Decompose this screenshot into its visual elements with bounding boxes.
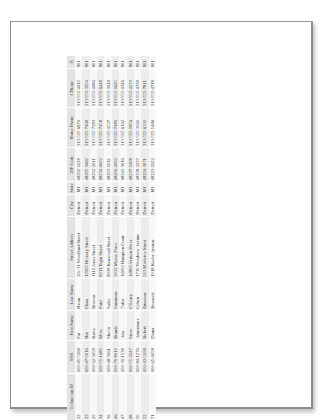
- table-cell: 48204-3071: [141, 148, 148, 182]
- table-cell: Simmons: [112, 278, 119, 310]
- table-cell: 000-47-5016: [82, 340, 89, 373]
- table-cell: 313-555-4537: [104, 108, 111, 148]
- column-header: Technician ID: [67, 373, 75, 420]
- table-cell: 3032 Moose Place: [112, 216, 119, 278]
- table-cell: 313-555-7468: [82, 108, 89, 148]
- table-cell: Hui: [82, 310, 89, 340]
- table-row: 22000-45-5368PatHwan20c 31 Woodland Stre…: [75, 56, 82, 420]
- table-cell: 313-555-4346: [119, 69, 126, 108]
- table-cell: Detroit: [119, 194, 126, 216]
- table-row: 50000-84-1274AnnemarieCohen1730 Woodrow …: [134, 56, 141, 420]
- table-cell: Cohen: [134, 278, 141, 310]
- table-cell: 23: [82, 373, 89, 420]
- table-cell: 000-48-3961: [104, 340, 111, 373]
- table-cell: 313-555-3941: [134, 108, 141, 148]
- table-cell: 801: [104, 56, 111, 69]
- table-cell: Chan: [82, 278, 89, 310]
- table-cell: 000-84-1274: [134, 340, 141, 373]
- table-row: 34000-55-1480MikePatel8211 Elgin StreetD…: [97, 56, 104, 420]
- table-cell: 801: [119, 56, 126, 69]
- table-cell: 48: [127, 373, 134, 420]
- table-cell: 313-555-4798: [134, 69, 141, 108]
- table-cell: Mike: [97, 310, 104, 340]
- table-cell: MI: [104, 182, 111, 194]
- table-cell: 48238-2237: [134, 148, 141, 182]
- table-cell: MI: [90, 182, 97, 194]
- table-cell: Detroit: [82, 194, 89, 216]
- table-cell: 48205-3462: [82, 148, 89, 182]
- table-cell: Annemarie: [134, 310, 141, 340]
- table-cell: Rosenski: [149, 278, 156, 310]
- table-cell: 48234-4002: [97, 148, 104, 182]
- table-cell: 313-555-4233: [127, 69, 134, 108]
- table-cell: 313-555-3618: [104, 69, 111, 108]
- table-row: 23000-47-5016HuiChan12905 Hickory Street…: [82, 56, 89, 420]
- table-cell: 1730 Woodrow Avenue: [134, 216, 141, 278]
- table-cell: 47: [119, 373, 126, 420]
- document-page: Technician IDSSNFirst NameLast NameStree…: [10, 21, 313, 409]
- table-cell: 34: [97, 373, 104, 420]
- table-cell: 48221-3016: [119, 148, 126, 182]
- table-cell: 000-65-4058: [149, 340, 156, 373]
- table-cell: 48203-1112: [104, 148, 111, 182]
- table-cell: Brandi: [112, 310, 119, 340]
- table-cell: Detroit: [75, 194, 82, 216]
- table-cell: 48202-1138: [75, 148, 82, 182]
- technician-table: Technician IDSSNFirst NameLast NameStree…: [67, 55, 156, 420]
- table-cell: 1111 Jones Street: [90, 216, 97, 278]
- table-cell: 20c 31 Woodland Street: [75, 216, 82, 278]
- table-cell: Diana: [149, 310, 156, 340]
- table-cell: Detroit: [104, 194, 111, 216]
- column-header: State: [67, 182, 75, 194]
- table-cell: 313-555-4412: [75, 69, 82, 108]
- column-header: First Name: [67, 310, 75, 340]
- column-header: Last Name: [67, 278, 75, 310]
- table-cell: 313-555-9856: [127, 108, 134, 148]
- table-cell: 503 Mistletoe Street: [141, 216, 148, 278]
- rotated-table-container: Technician IDSSNFirst NameLast NameStree…: [67, 55, 156, 420]
- table-cell: Detroit: [141, 194, 148, 216]
- table-cell: MI: [97, 182, 104, 194]
- table-cell: 801: [97, 56, 104, 69]
- column-header: City: [67, 194, 75, 216]
- table-cell: 29: [90, 373, 97, 420]
- table-cell: 000-55-1480: [97, 340, 104, 373]
- table-cell: MI: [112, 182, 119, 194]
- table-cell: Detroit: [134, 194, 141, 216]
- table-cell: MI: [75, 182, 82, 194]
- table-cell: 000-62-3458: [90, 340, 97, 373]
- table-cell: 000-70-8412: [112, 340, 119, 373]
- column-header: Street Address: [67, 216, 75, 278]
- table-cell: 14800 Vernon Drive: [127, 216, 134, 278]
- table-cell: Pat: [75, 310, 82, 340]
- table-cell: 801: [134, 56, 141, 69]
- table-cell: 313-555-6874: [75, 108, 82, 148]
- column-header: ⎘: [67, 56, 75, 69]
- table-cell: Detroit: [127, 194, 134, 216]
- table-cell: Emerson: [141, 278, 148, 310]
- table-cell: 000-43-5198: [141, 340, 148, 373]
- column-header: Home Phone: [67, 108, 75, 148]
- table-cell: MI: [127, 182, 134, 194]
- table-cell: 8211 Elgin Street: [97, 216, 104, 278]
- table-cell: 801: [141, 56, 148, 69]
- header-row: Technician IDSSNFirst NameLast NameStree…: [67, 56, 75, 420]
- table-cell: 801: [127, 56, 134, 69]
- table-cell: 313-555-3254: [82, 69, 89, 108]
- table-cell: MI: [141, 182, 148, 194]
- table-cell: 313-555-6248: [97, 69, 104, 108]
- table-cell: Ana: [119, 310, 126, 340]
- table-cell: 48202-2011: [90, 148, 97, 182]
- table-cell: MI: [119, 182, 126, 194]
- column-header: CPhone: [67, 69, 75, 108]
- table-cell: Robert: [141, 310, 148, 340]
- column-header: ZIP Code: [67, 148, 75, 182]
- table-cell: 22: [75, 373, 82, 420]
- table-cell: Detroit: [90, 194, 97, 216]
- table-cell: MI: [134, 182, 141, 194]
- table-row: 29000-62-3458KarlaBrowne1111 Jones Stree…: [90, 56, 97, 420]
- table-cell: 313-555-4486: [90, 69, 97, 108]
- table-cell: 39: [104, 373, 111, 420]
- table-cell: 313-555-4718: [149, 69, 156, 108]
- table-cell: Karla: [90, 310, 97, 340]
